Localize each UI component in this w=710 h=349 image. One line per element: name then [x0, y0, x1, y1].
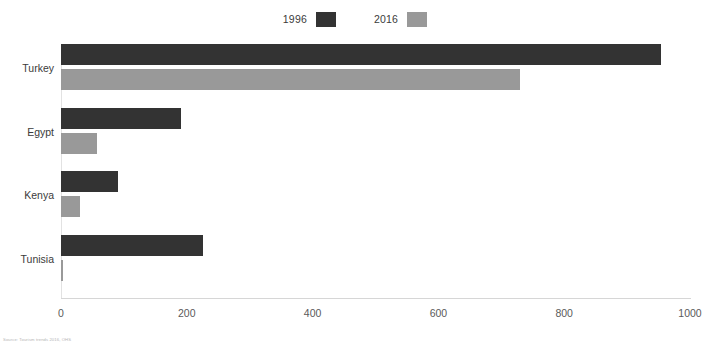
legend-swatch-2016 — [407, 12, 427, 27]
legend-item-2016[interactable]: 2016 — [374, 12, 427, 27]
legend-swatch-1996 — [316, 12, 336, 27]
bar-group-turkey — [61, 44, 690, 90]
bar-kenya-1996[interactable] — [61, 171, 118, 192]
x-tick-400: 400 — [304, 308, 322, 319]
category-label-turkey: Turkey — [0, 63, 54, 74]
bar-egypt-2016[interactable] — [61, 133, 97, 154]
legend-label-2016: 2016 — [374, 14, 398, 25]
bar-group-tunisia — [61, 235, 690, 281]
bar-group-kenya — [61, 171, 690, 217]
chart-legend: 1996 2016 — [0, 12, 710, 27]
bar-tunisia-2016[interactable] — [61, 260, 63, 281]
bar-turkey-1996[interactable] — [61, 44, 661, 65]
bar-egypt-1996[interactable] — [61, 108, 181, 129]
category-label-egypt: Egypt — [0, 127, 54, 138]
bar-turkey-2016[interactable] — [61, 69, 520, 90]
category-label-kenya: Kenya — [0, 190, 54, 201]
x-tick-1000: 1000 — [678, 308, 701, 319]
x-tick-600: 600 — [430, 308, 448, 319]
x-tick-200: 200 — [178, 308, 196, 319]
legend-label-1996: 1996 — [283, 14, 307, 25]
bar-tunisia-1996[interactable] — [61, 235, 203, 256]
plot-area — [61, 44, 690, 298]
bar-group-egypt — [61, 108, 690, 154]
x-tick-800: 800 — [555, 308, 573, 319]
category-label-tunisia: Tunisia — [0, 254, 54, 265]
x-tick-0: 0 — [58, 308, 64, 319]
source-note: Source: Tourism trends 2016, OHS — [3, 338, 71, 342]
bar-kenya-2016[interactable] — [61, 196, 80, 217]
x-axis-line — [61, 298, 691, 299]
legend-item-1996[interactable]: 1996 — [283, 12, 336, 27]
bar-chart: 1996 2016 Turkey Egypt Kenya Tunisia 020… — [0, 0, 710, 349]
